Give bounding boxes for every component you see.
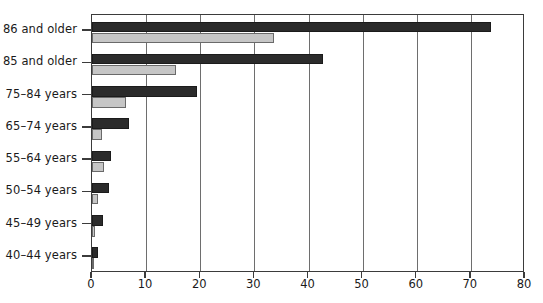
y-axis-tick-label: 40–44 years — [0, 248, 77, 262]
bar-light — [92, 226, 95, 237]
bar-group — [92, 47, 525, 79]
bar-light — [92, 194, 98, 205]
bar-chart: 86 and older85 and older75–84 years65–74… — [0, 0, 543, 303]
y-axis-tick-label: 55–64 years — [0, 151, 77, 165]
bar-dark — [92, 22, 491, 33]
bar-light — [92, 97, 126, 108]
y-axis-tick-label: 75–84 years — [0, 87, 77, 101]
y-axis-tick-label: 45–49 years — [0, 216, 77, 230]
y-axis-tick-mark — [82, 94, 91, 95]
bar-group — [92, 15, 525, 47]
x-axis-tick-label: 40 — [300, 277, 315, 291]
bar-group — [92, 112, 525, 144]
y-axis-tick-mark — [82, 62, 91, 63]
bar-group — [92, 80, 525, 112]
x-axis-tick-label: 0 — [87, 277, 94, 291]
bar-light — [92, 129, 102, 140]
bar-light — [92, 65, 176, 76]
bar-group — [92, 241, 525, 273]
y-axis-tick-label: 86 and older — [0, 22, 77, 36]
bar-dark — [92, 215, 103, 226]
bar-dark — [92, 118, 129, 129]
bar-group — [92, 144, 525, 176]
y-axis-tick-mark — [82, 255, 91, 256]
bar-dark — [92, 86, 197, 97]
bar-dark — [92, 151, 111, 162]
bar-group — [92, 209, 525, 241]
bar-light — [92, 258, 94, 269]
x-axis-tick-label: 10 — [138, 277, 153, 291]
y-axis-tick-mark — [82, 29, 91, 30]
y-axis-tick-label: 65–74 years — [0, 119, 77, 133]
bar-light — [92, 33, 274, 44]
y-axis-tick-mark — [82, 223, 91, 224]
plot-area — [91, 14, 524, 272]
bar-light — [92, 162, 104, 173]
x-axis-tick-label: 20 — [192, 277, 207, 291]
y-axis-tick-mark — [82, 191, 91, 192]
y-axis-tick-label: 85 and older — [0, 54, 77, 68]
x-axis-tick-label: 80 — [517, 277, 532, 291]
bar-group — [92, 176, 525, 208]
y-axis-tick-mark — [82, 158, 91, 159]
bar-dark — [92, 54, 323, 65]
x-axis-tick-label: 70 — [463, 277, 478, 291]
x-axis-tick-label: 60 — [408, 277, 423, 291]
x-axis-tick-label: 50 — [354, 277, 369, 291]
y-axis-tick-mark — [82, 126, 91, 127]
y-axis-tick-label: 50–54 years — [0, 183, 77, 197]
x-axis-tick-label: 30 — [246, 277, 261, 291]
bar-dark — [92, 247, 98, 258]
bar-dark — [92, 183, 109, 194]
